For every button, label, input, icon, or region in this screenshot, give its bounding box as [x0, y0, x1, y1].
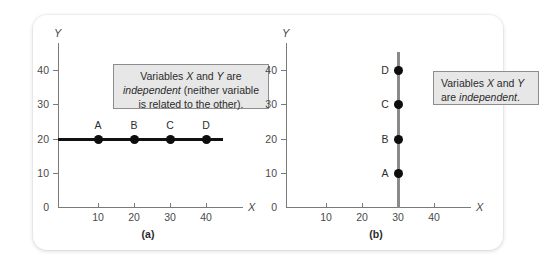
annotation-a-line1-pre: Variables [140, 70, 186, 82]
data-point-label-b-A: A [378, 167, 392, 179]
y-tick-mark-a-40 [53, 70, 58, 71]
annotation-a-line1-mid: and [193, 70, 216, 82]
data-point-label-a-D: D [199, 119, 213, 131]
annotation-b-line1-mid: and [494, 77, 517, 89]
annotation-a-line1-post: are [224, 70, 242, 82]
annotation-b-emph: independent [459, 91, 517, 103]
x-tick-label-b-10: 10 [316, 211, 336, 223]
data-point-label-b-D: D [378, 64, 392, 76]
x-tick-label-a-20: 20 [124, 211, 144, 223]
series-line-a [58, 138, 223, 141]
panel-caption-b: (b) [356, 228, 396, 240]
x-tick-label-a-40: 40 [196, 211, 216, 223]
x-tick-label-a-30: 30 [160, 211, 180, 223]
y-axis-b [286, 43, 287, 208]
y-tick-label-b-30: 30 [259, 98, 277, 110]
y-tick-mark-b-40 [281, 70, 286, 71]
annotation-a-line2-post: (neither variable [181, 84, 259, 96]
x-tick-mark-b-20 [362, 203, 363, 208]
annotation-a-var-y: Y [217, 70, 224, 82]
x-tick-mark-a-10 [98, 203, 99, 208]
x-axis-label-b: X [476, 201, 483, 213]
x-tick-mark-a-40 [206, 203, 207, 208]
x-axis-a [58, 207, 243, 208]
data-point-label-b-C: C [378, 98, 392, 110]
y-tick-label-b-10: 10 [259, 167, 277, 179]
chart-panel-b: Y X 40 30 20 10 0 10 20 30 40 D C B A [261, 15, 496, 250]
y-tick-mark-b-20 [281, 139, 286, 140]
y-tick-label-a-20: 20 [31, 133, 49, 145]
x-tick-mark-a-30 [170, 203, 171, 208]
x-axis-label-a: X [248, 201, 255, 213]
data-point-a-D [202, 135, 211, 144]
data-point-b-C [394, 100, 403, 109]
figure-card: Y X 40 30 20 10 0 10 20 30 40 A B C D [33, 15, 503, 250]
x-tick-label-b-20: 20 [352, 211, 372, 223]
x-tick-label-b-40: 40 [424, 211, 444, 223]
y-tick-label-a-40: 40 [31, 64, 49, 76]
x-tick-mark-b-40 [434, 203, 435, 208]
y-tick-label-a-10: 10 [31, 167, 49, 179]
annotation-b-line1-pre: Variables [441, 77, 487, 89]
x-tick-mark-a-20 [134, 203, 135, 208]
y-tick-label-b-20: 20 [259, 133, 277, 145]
data-point-a-C [166, 135, 175, 144]
series-line-b [397, 52, 400, 208]
y-tick-label-a-30: 30 [31, 98, 49, 110]
annotation-a-emph: independent [123, 84, 181, 96]
y-axis-label-b: Y [282, 27, 289, 39]
annotation-a-line3: is related to the other). [138, 98, 243, 110]
data-point-b-B [394, 135, 403, 144]
data-point-a-B [130, 135, 139, 144]
y-tick-label-b-40: 40 [259, 64, 277, 76]
y-tick-mark-a-10 [53, 173, 58, 174]
data-point-label-a-C: C [163, 119, 177, 131]
y-tick-label-a-0: 0 [31, 201, 49, 213]
data-point-a-A [94, 135, 103, 144]
y-tick-label-b-0: 0 [259, 201, 277, 213]
data-point-label-a-B: B [127, 119, 141, 131]
x-axis-b [286, 207, 471, 208]
annotation-b-var-x: X [487, 77, 494, 89]
annotation-b-line2-pre: are [441, 91, 459, 103]
annotation-b-line2-post: . [517, 91, 520, 103]
data-point-label-b-B: B [378, 133, 392, 145]
y-tick-mark-a-30 [53, 104, 58, 105]
annotation-box-b: Variables X and Yare independent. [433, 71, 539, 105]
data-point-b-D [394, 66, 403, 75]
x-tick-label-a-10: 10 [88, 211, 108, 223]
x-tick-label-b-30: 30 [388, 211, 408, 223]
y-axis-a [58, 43, 59, 208]
y-axis-label-a: Y [54, 27, 61, 39]
annotation-box-a: Variables X and Y areindependent (neithe… [113, 64, 269, 109]
annotation-b-var-y: Y [517, 77, 524, 89]
y-tick-mark-b-30 [281, 104, 286, 105]
data-point-label-a-A: A [91, 119, 105, 131]
y-tick-mark-b-10 [281, 173, 286, 174]
chart-panel-a: Y X 40 30 20 10 0 10 20 30 40 A B C D [33, 15, 268, 250]
x-tick-mark-b-10 [326, 203, 327, 208]
data-point-b-A [394, 169, 403, 178]
panel-caption-a: (a) [128, 228, 168, 240]
